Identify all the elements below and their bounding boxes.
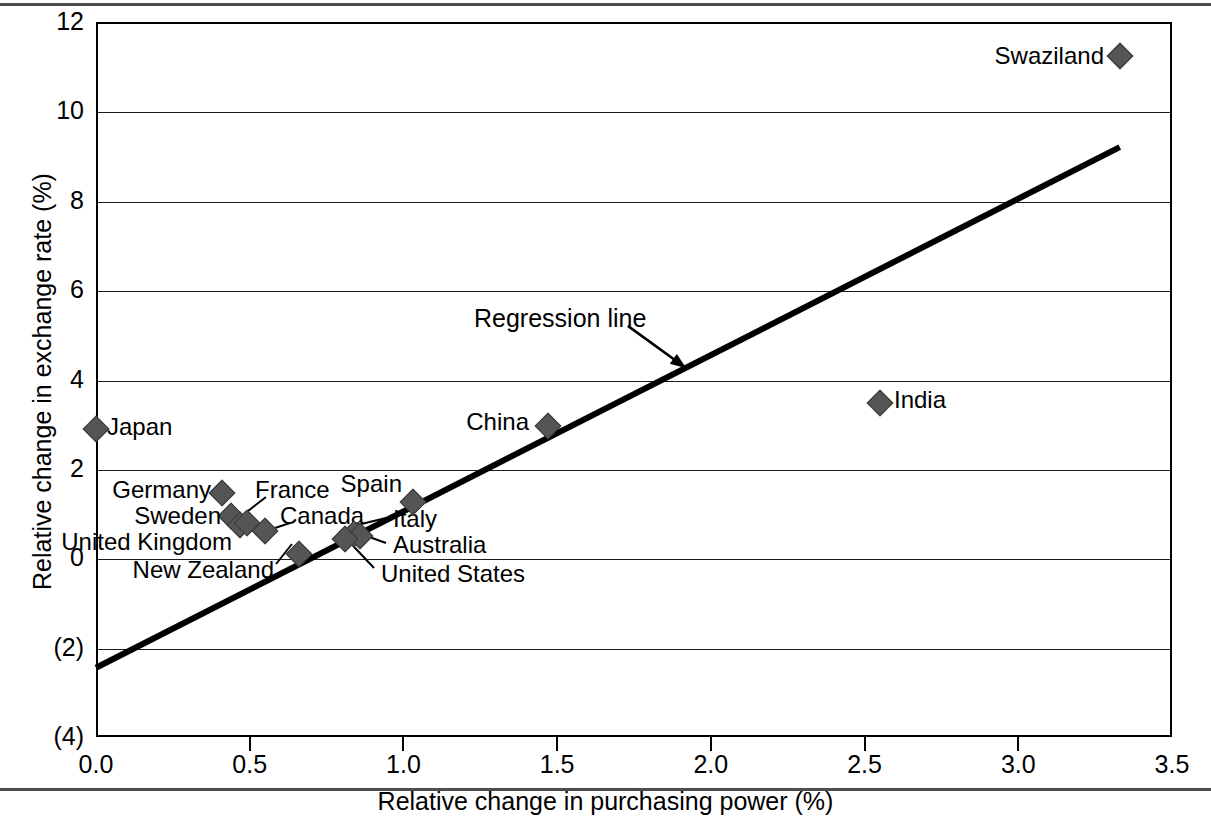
gridline-y-4 [98,381,1170,382]
gridline-y-8 [98,202,1170,203]
data-point-label-new-zealand: New Zealand [133,558,274,582]
x-tick-label-0.0: 0.0 [79,752,114,777]
data-point-label-spain: Spain [341,472,402,496]
x-tick-label-0.5: 0.5 [232,752,267,777]
x-tick-label-2.5: 2.5 [847,752,882,777]
data-point-label-united-kingdom: United Kingdom [61,530,232,554]
y-tick-label-6: 6 [70,277,84,302]
x-tick-mark-3.0 [1017,737,1019,751]
scatter-chart-figure: 121086420(2)(4) 0.00.51.01.52.02.53.03.5… [0,0,1211,818]
x-axis-title: Relative change in purchasing power (%) [0,787,1211,816]
gridline-y--2 [98,649,1170,650]
y-tick-label-4: 4 [70,367,84,392]
data-point-label-swaziland: Swaziland [995,44,1104,68]
data-point-label-germany: Germany [112,478,211,502]
x-tick-label-1.0: 1.0 [386,752,421,777]
gridline-y-6 [98,291,1170,292]
data-point-label-india: India [894,388,946,412]
x-tick-label-1.5: 1.5 [540,752,575,777]
gridline-y-10 [98,112,1170,113]
y-tick-label--2: (2) [53,635,84,660]
data-point-label-france: France [255,478,330,502]
y-axis-title: Relative change in exchange rate (%) [28,62,57,702]
data-point-label-australia: Australia [393,533,486,557]
data-point-label-united-states: United States [381,562,525,586]
x-axis-tick-labels: 0.00.51.01.52.02.53.03.5 [0,752,1211,792]
gridline-y-2 [98,470,1170,471]
data-point-label-japan: Japan [107,415,172,439]
data-point-label-china: China [466,410,529,434]
y-tick-label-12: 12 [56,9,84,34]
plot-area [96,22,1172,737]
x-tick-mark-1.0 [402,737,404,751]
x-tick-mark-2.5 [864,737,866,751]
y-tick-label-8: 8 [70,188,84,213]
x-tick-label-2.0: 2.0 [693,752,728,777]
x-tick-mark-2.0 [710,737,712,751]
x-tick-label-3.0: 3.0 [1001,752,1036,777]
y-tick-label-2: 2 [70,456,84,481]
y-tick-label-10: 10 [56,98,84,123]
regression-line-label: Regression line [474,306,646,331]
data-point-label-sweden: Sweden [134,504,221,528]
x-tick-label-3.5: 3.5 [1155,752,1190,777]
y-tick-label--4: (4) [53,724,84,749]
x-tick-mark-1.5 [556,737,558,751]
x-tick-mark-0.5 [249,737,251,751]
